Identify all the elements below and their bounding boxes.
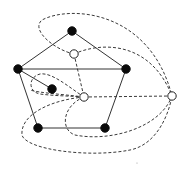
black-vertex-b-bottom-left (34, 124, 42, 132)
black-vertex-b-right (122, 65, 130, 73)
white-vertex-w-center (80, 93, 88, 101)
dashed-edges (22, 13, 172, 153)
white-vertex-w-upper (70, 50, 78, 58)
dashed-edge-w-center-w-far-right (65, 96, 172, 137)
black-vertex-b-top (68, 27, 76, 35)
scan-artifacts (136, 162, 137, 163)
dashed-edge-w-center-w-center (31, 74, 84, 97)
solid-edge-b-top-b-right (72, 31, 126, 69)
solid-edges (18, 31, 126, 128)
solid-edge-b-left-b-inner (18, 69, 52, 89)
dashed-edge-w-center-w-far-right (22, 96, 172, 153)
dashed-edge-w-upper-w-center (74, 54, 84, 97)
vertices (14, 27, 176, 132)
black-vertex-b-left (14, 65, 22, 73)
solid-edge-b-top-b-left (18, 31, 72, 69)
white-vertex-w-far-right (168, 92, 176, 100)
dashed-edge-w-center-w-far-right (84, 96, 172, 97)
solid-edge-b-right-b-bottom-right (105, 69, 126, 128)
black-vertex-b-inner (48, 85, 56, 93)
scan-dot (136, 162, 137, 163)
black-vertex-b-bottom-right (101, 124, 109, 132)
graph-diagram (0, 0, 185, 169)
